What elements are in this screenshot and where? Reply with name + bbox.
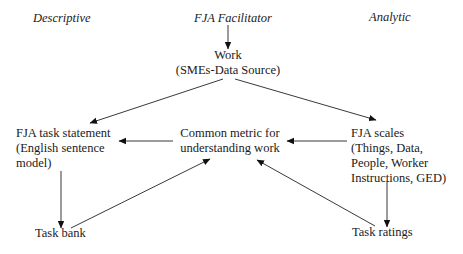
node-common-metric: Common metric for understanding work — [172, 126, 288, 156]
node-task-statement-line3: model) — [16, 156, 110, 171]
node-task-ratings: Task ratings — [352, 225, 413, 240]
node-work: Work (SMEs-Data Source) — [168, 48, 288, 78]
header-descriptive: Descriptive — [33, 11, 91, 26]
node-fja-scales-line4: Instructions, GED) — [351, 171, 446, 186]
node-task-bank: Task bank — [35, 226, 86, 241]
node-common-metric-line1: Common metric for — [172, 126, 288, 141]
header-analytic: Analytic — [369, 10, 411, 25]
node-task-statement-line1: FJA task statement — [16, 126, 110, 141]
node-task-statement: FJA task statement (English sentence mod… — [16, 126, 110, 171]
node-work-subtitle: (SMEs-Data Source) — [168, 63, 288, 78]
node-fja-scales-line2: (Things, Data, — [351, 141, 446, 156]
header-fja-facilitator: FJA Facilitator — [194, 11, 272, 26]
arrow-work-to-task-statement — [90, 79, 223, 123]
node-task-statement-line2: (English sentence — [16, 141, 110, 156]
node-fja-scales-line3: People, Worker — [351, 156, 446, 171]
node-fja-scales: FJA scales (Things, Data, People, Worker… — [351, 126, 446, 186]
arrow-work-to-fja-scales — [235, 79, 376, 120]
node-common-metric-line2: understanding work — [172, 141, 288, 156]
node-fja-scales-line1: FJA scales — [351, 126, 446, 141]
node-work-title: Work — [168, 48, 288, 63]
